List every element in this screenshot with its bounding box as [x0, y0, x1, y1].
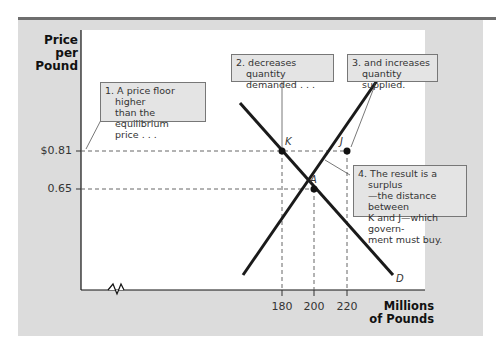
callout-3: 3. and increases quantity supplied. [347, 54, 438, 82]
y-label-line: Pound [30, 60, 78, 73]
leader-1 [86, 120, 101, 149]
label-j: J [340, 136, 343, 147]
y-tick-label-high: $0.81 [22, 144, 72, 157]
point-j [344, 148, 351, 155]
y-axis-label: Price per Pound [30, 34, 78, 73]
callout-2: 2. decreases quantity demanded . . . [231, 54, 334, 82]
point-a [311, 186, 318, 193]
label-k: K [285, 136, 292, 147]
label-a: A [310, 174, 317, 185]
leader-4 [325, 160, 350, 175]
x-axis-label: Millions of Pounds [354, 300, 434, 326]
axis-break-icon [108, 284, 124, 294]
callout-4: 4. The result is a surplus —the distance… [353, 165, 467, 217]
x-tick-label-200: 200 [299, 300, 329, 313]
label-demand: D [396, 273, 404, 284]
x-tick-label-220: 220 [332, 300, 362, 313]
x-tick-label-180: 180 [267, 300, 297, 313]
y-tick-label-low: 0.65 [22, 182, 72, 195]
callout-1: 1. A price floor higher than the equilib… [100, 82, 206, 122]
leader-3 [351, 85, 375, 147]
point-k [279, 148, 286, 155]
x-label-line: of Pounds [354, 313, 434, 326]
